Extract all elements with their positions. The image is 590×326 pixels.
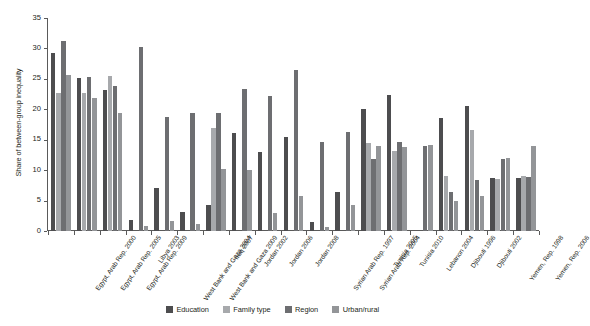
bar-group xyxy=(100,18,126,231)
bar xyxy=(397,142,401,231)
bar xyxy=(521,176,525,231)
y-tick-label: 5 xyxy=(37,195,41,204)
legend-label: Education xyxy=(176,305,208,314)
bar-group xyxy=(306,18,332,231)
bar xyxy=(475,180,479,231)
bar-group xyxy=(410,18,436,231)
bar xyxy=(216,113,220,231)
bar xyxy=(495,179,499,231)
legend-item[interactable]: Education xyxy=(166,305,209,314)
bar xyxy=(284,137,288,231)
x-axis-labels: Egypt, Arab Rep. 2000Egypt, Arab Rep. 20… xyxy=(47,234,539,296)
y-tick-mark xyxy=(44,140,48,141)
y-tick-mark xyxy=(44,18,48,19)
bar xyxy=(154,188,158,231)
y-tick-label: 30 xyxy=(33,43,41,52)
bar xyxy=(423,146,427,231)
bar xyxy=(346,132,350,231)
y-tick-mark xyxy=(44,48,48,49)
bar xyxy=(428,145,432,231)
x-tick-label: Jordan 2006 xyxy=(288,234,314,268)
bar-group xyxy=(281,18,307,231)
y-tick-mark xyxy=(44,109,48,110)
bar xyxy=(392,151,396,231)
bar xyxy=(320,142,324,231)
bar xyxy=(258,152,262,231)
y-tick-label: 35 xyxy=(33,13,41,22)
y-tick-label: 15 xyxy=(33,134,41,143)
bar xyxy=(335,192,339,231)
bar xyxy=(247,170,251,231)
bar xyxy=(402,147,406,231)
bar xyxy=(82,93,86,231)
bar xyxy=(361,109,365,231)
x-tick-label: Tunisia 2010 xyxy=(417,234,444,268)
bar-group xyxy=(74,18,100,231)
legend-swatch-icon xyxy=(166,306,173,313)
bars-layer xyxy=(48,18,539,231)
bar xyxy=(351,205,355,231)
bar xyxy=(221,169,225,231)
legend-label: Urban/rural xyxy=(343,305,379,314)
bar xyxy=(51,53,55,231)
y-tick-mark xyxy=(44,231,48,232)
bar-group xyxy=(229,18,255,231)
bar xyxy=(371,159,375,231)
y-tick-label: 20 xyxy=(33,104,41,113)
bar-group xyxy=(151,18,177,231)
bar xyxy=(92,98,96,231)
bar xyxy=(299,196,303,231)
legend-item[interactable]: Family type xyxy=(223,305,271,314)
x-tick-label: Jordan 2008 xyxy=(314,234,340,268)
bar xyxy=(465,106,469,231)
bar xyxy=(387,95,391,231)
bar-group xyxy=(203,18,229,231)
bar xyxy=(506,158,510,231)
y-tick-mark xyxy=(44,170,48,171)
bar xyxy=(273,213,277,231)
bar xyxy=(144,226,148,231)
bar xyxy=(196,224,200,231)
bar xyxy=(56,93,60,231)
bar xyxy=(165,117,169,231)
bar-group xyxy=(332,18,358,231)
x-tick-label: Djibouti 1996 xyxy=(469,234,496,269)
y-tick-label: 25 xyxy=(33,73,41,82)
bar-group xyxy=(126,18,152,231)
legend-swatch-icon xyxy=(223,306,230,313)
bar xyxy=(118,113,122,231)
bar xyxy=(439,118,443,231)
bar-group xyxy=(255,18,281,231)
bar xyxy=(444,176,448,231)
y-tick-label: 10 xyxy=(33,165,41,174)
bar xyxy=(139,47,143,231)
bar xyxy=(268,96,272,231)
bar-group xyxy=(461,18,487,231)
y-tick-mark xyxy=(44,79,48,80)
legend-swatch-icon xyxy=(332,306,339,313)
legend-swatch-icon xyxy=(285,306,292,313)
bar xyxy=(232,133,236,231)
x-tick-mark xyxy=(539,231,540,235)
legend-item[interactable]: Urban/rural xyxy=(332,305,379,314)
bar-group xyxy=(487,18,513,231)
bar xyxy=(294,70,298,231)
bar xyxy=(325,227,329,231)
bar-group xyxy=(513,18,539,231)
chart-legend: EducationFamily typeRegionUrban/rural xyxy=(0,305,545,314)
bar xyxy=(211,128,215,231)
bar-group xyxy=(358,18,384,231)
bar xyxy=(490,178,494,231)
bar xyxy=(531,146,535,231)
bar xyxy=(526,177,530,231)
bar xyxy=(501,159,505,231)
x-tick-label: Tunisia 2005 xyxy=(391,234,418,268)
bar xyxy=(310,222,314,231)
bar xyxy=(180,212,184,231)
bar xyxy=(516,178,520,231)
bar xyxy=(170,221,174,231)
legend-item[interactable]: Region xyxy=(285,305,319,314)
bar-group xyxy=(48,18,74,231)
y-tick-label: 0 xyxy=(37,226,41,235)
